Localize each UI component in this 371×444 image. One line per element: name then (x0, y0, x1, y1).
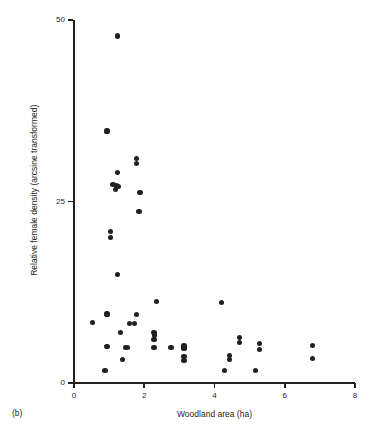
data-point (222, 368, 227, 373)
data-point (127, 321, 132, 326)
data-point (257, 341, 262, 346)
plot-area (74, 20, 355, 383)
data-point (151, 337, 156, 342)
data-point (104, 311, 109, 316)
y-tick-label-50: 50 (43, 16, 65, 24)
data-point (136, 209, 141, 214)
data-point (137, 190, 142, 195)
x-tick-4 (214, 383, 216, 388)
x-axis-title: Woodland area (ha) (74, 410, 355, 419)
data-point (151, 345, 156, 350)
data-point (104, 128, 109, 133)
data-point (120, 357, 125, 362)
x-tick-6 (284, 383, 286, 388)
panel-label: (b) (12, 409, 22, 418)
data-point (310, 356, 315, 361)
data-point (90, 320, 95, 325)
data-point (125, 345, 130, 350)
data-point (118, 330, 123, 335)
y-axis-title: Relative female density (arcsine transfo… (30, 70, 39, 310)
data-point (154, 299, 159, 304)
x-tick-label-2: 2 (134, 392, 154, 400)
data-point (168, 345, 173, 350)
y-tick-50 (68, 19, 73, 21)
data-point (227, 357, 232, 362)
data-point (310, 343, 315, 348)
x-tick-label-0: 0 (64, 392, 84, 400)
data-point (132, 321, 137, 326)
data-point (134, 312, 139, 317)
data-point (115, 272, 120, 277)
data-point (115, 33, 120, 38)
data-point (115, 170, 120, 175)
x-tick-8 (354, 383, 356, 388)
data-point (237, 340, 242, 345)
y-tick-label-25: 25 (43, 198, 65, 206)
scatter-plot-figure: 02550 02468 Relative female density (arc… (0, 0, 371, 444)
data-point (181, 358, 186, 363)
data-point (134, 161, 139, 166)
x-tick-2 (143, 383, 145, 388)
data-point (108, 235, 113, 240)
y-tick-25 (68, 201, 73, 203)
x-tick-label-8: 8 (345, 392, 365, 400)
data-point (181, 346, 186, 351)
x-tick-label-4: 4 (205, 392, 225, 400)
data-point (108, 229, 113, 234)
x-tick-label-6: 6 (275, 392, 295, 400)
data-point (102, 368, 107, 373)
x-tick-0 (73, 383, 75, 388)
data-point (257, 347, 262, 352)
data-point (104, 344, 109, 349)
data-point (219, 300, 224, 305)
data-point (253, 368, 258, 373)
y-tick-label-0: 0 (43, 379, 65, 387)
data-point (113, 187, 118, 192)
